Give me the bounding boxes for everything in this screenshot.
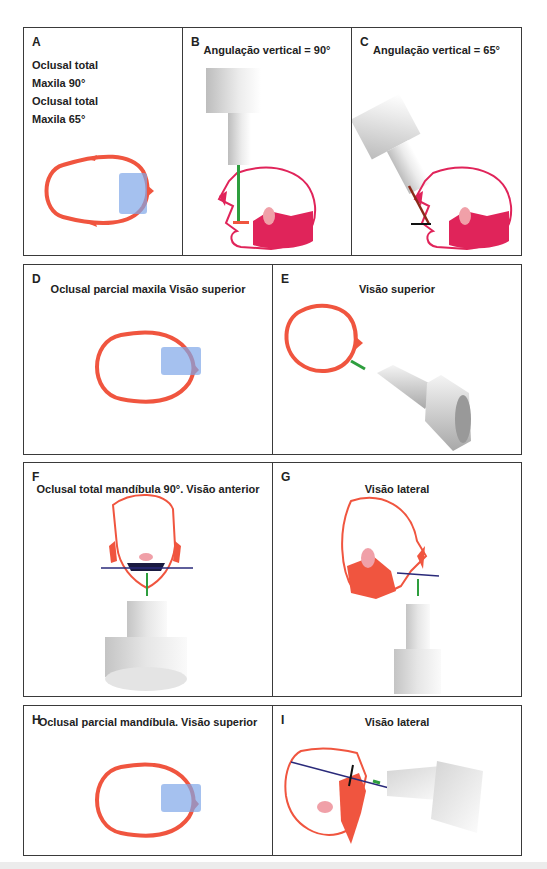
tilted-lateral-with-cone bbox=[273, 706, 523, 857]
lateral-skull-65 bbox=[352, 28, 523, 257]
panel-a: A Oclusal total Maxila 90° Oclusal total… bbox=[23, 27, 183, 256]
occlusal-line bbox=[397, 573, 439, 576]
anterior-view-with-cone bbox=[24, 463, 274, 698]
panel-d: D Oclusal parcial maxila Visão superior bbox=[23, 264, 273, 455]
panel-b: B Angulação vertical = 90° bbox=[182, 27, 352, 256]
nose bbox=[147, 185, 154, 197]
ear bbox=[317, 801, 333, 813]
panel-i: I Visão lateral bbox=[272, 705, 522, 856]
panel-g: G Visão lateral bbox=[272, 462, 522, 697]
ear bbox=[459, 207, 471, 225]
occlusal-film bbox=[161, 347, 201, 375]
panel-c: C Angulação vertical = 65° bbox=[351, 27, 522, 256]
mandible bbox=[253, 211, 313, 248]
panel-e: E Visão superior bbox=[272, 264, 522, 455]
central-ray bbox=[373, 781, 380, 783]
skull-top-view bbox=[24, 706, 274, 857]
central-ray bbox=[351, 361, 365, 369]
xray-cone-tube bbox=[127, 601, 167, 637]
top-view-with-cone bbox=[273, 265, 523, 456]
xray-cone-head bbox=[394, 649, 441, 694]
central-ray bbox=[237, 165, 240, 223]
cone-opening bbox=[455, 395, 471, 443]
skull-outline bbox=[113, 495, 175, 588]
skull-top-view bbox=[24, 265, 274, 456]
ear bbox=[263, 207, 275, 225]
occlusal-film bbox=[119, 173, 147, 214]
occlusal-film bbox=[233, 221, 249, 224]
xray-cone-tube bbox=[387, 140, 431, 194]
nasal bbox=[139, 553, 153, 561]
xray-cone-head bbox=[206, 68, 261, 113]
xray-cone-head bbox=[431, 761, 483, 833]
skull-outline bbox=[286, 306, 355, 371]
xray-cone-tube bbox=[228, 113, 251, 165]
occlusal-film bbox=[127, 563, 165, 571]
ear bbox=[361, 548, 375, 568]
jaw-left bbox=[109, 541, 117, 563]
panel-h: H Oclusal parcial mandíbula. Visão super… bbox=[23, 705, 273, 856]
mandible bbox=[449, 211, 509, 248]
skull-top-view bbox=[24, 28, 184, 257]
lateral-view-with-cone bbox=[273, 463, 523, 698]
page-footer-band bbox=[0, 862, 547, 869]
lateral-skull-90 bbox=[183, 28, 353, 257]
nose bbox=[356, 337, 363, 349]
xray-cone-tube bbox=[406, 604, 430, 656]
occlusal-film bbox=[161, 784, 201, 812]
panel-f: F Oclusal total mandíbula 90°. Visão ant… bbox=[23, 462, 273, 697]
mandible bbox=[339, 773, 366, 844]
cone-opening bbox=[105, 667, 187, 691]
